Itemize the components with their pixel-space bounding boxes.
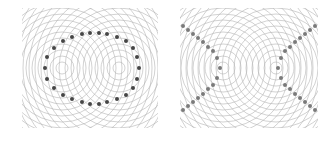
wave-ring xyxy=(180,8,318,128)
wave-ring xyxy=(180,8,318,128)
interference-dot xyxy=(97,31,101,35)
interference-dot xyxy=(43,66,47,70)
interference-dot xyxy=(191,100,195,104)
interference-dot xyxy=(131,46,135,50)
interference-dot xyxy=(288,87,292,91)
interference-dot xyxy=(105,32,109,36)
interference-dot xyxy=(276,66,280,70)
interference-dot xyxy=(70,35,74,39)
interference-dot xyxy=(80,100,84,104)
interference-dot xyxy=(303,32,307,36)
interference-dot xyxy=(283,49,287,53)
wave-ring xyxy=(180,8,318,128)
interference-dot xyxy=(201,92,205,96)
interference-dot xyxy=(218,66,222,70)
interference-dot xyxy=(45,77,49,81)
interference-dot xyxy=(293,40,297,44)
interference-dot xyxy=(215,76,219,80)
wave-interference-ellipse-figure xyxy=(22,8,158,128)
wave-ring xyxy=(180,8,318,128)
wave-ring xyxy=(83,32,155,104)
interference-dot xyxy=(196,96,200,100)
wave-ring xyxy=(95,44,143,92)
wave-ring xyxy=(180,8,318,128)
interference-dot xyxy=(288,45,292,49)
interference-dot xyxy=(279,56,283,60)
wave-source-2-rings xyxy=(180,8,318,128)
interference-dot xyxy=(298,36,302,40)
wave-ring xyxy=(180,8,318,128)
wave-source-1-rings xyxy=(180,8,318,128)
interference-dot xyxy=(105,100,109,104)
interference-dot xyxy=(191,32,195,36)
interference-dot xyxy=(211,83,215,87)
interference-dot xyxy=(206,45,210,49)
interference-dot xyxy=(88,31,92,35)
interference-dot xyxy=(115,35,119,39)
interference-dot xyxy=(135,77,139,81)
interference-dot xyxy=(131,86,135,90)
wave-ring xyxy=(180,8,318,128)
wave-ring xyxy=(180,8,318,128)
interference-dot xyxy=(303,100,307,104)
wave-ring xyxy=(180,8,283,128)
wave-ring xyxy=(205,50,241,86)
interference-dot xyxy=(181,24,185,28)
wave-ring xyxy=(180,8,318,128)
interference-dot xyxy=(97,102,101,106)
wave-ring xyxy=(211,56,235,80)
interference-dot xyxy=(283,83,287,87)
interference-dot xyxy=(196,36,200,40)
interference-dot xyxy=(215,56,219,60)
wave-ring xyxy=(26,32,98,104)
interference-dot xyxy=(206,87,210,91)
interference-dot xyxy=(186,28,190,32)
interference-dot xyxy=(52,86,56,90)
wave-ring xyxy=(44,50,80,86)
wave-ring xyxy=(113,62,125,74)
interference-dot xyxy=(279,76,283,80)
interference-dot xyxy=(298,96,302,100)
interference-panel-ellipse xyxy=(22,8,158,128)
interference-points xyxy=(181,24,317,112)
wave-ring xyxy=(180,8,318,128)
wave-ring xyxy=(65,14,158,122)
wave-ring xyxy=(107,56,131,80)
wave-interference-hyperbola-figure xyxy=(180,8,318,128)
interference-dot xyxy=(115,97,119,101)
interference-dot xyxy=(70,97,74,101)
interference-dot xyxy=(124,39,128,43)
wave-ring xyxy=(71,20,158,116)
interference-dot xyxy=(80,32,84,36)
interference-dot xyxy=(61,39,65,43)
wave-ring xyxy=(180,8,318,128)
wave-ring xyxy=(22,8,152,128)
interference-dot xyxy=(124,93,128,97)
interference-dot xyxy=(201,40,205,44)
interference-dot xyxy=(45,55,49,59)
interference-dot xyxy=(181,108,185,112)
interference-dot xyxy=(88,102,92,106)
wave-ring xyxy=(180,8,318,128)
wave-ring xyxy=(56,62,68,74)
wave-rings xyxy=(180,8,318,128)
wave-ring xyxy=(101,50,137,86)
interference-dot xyxy=(211,49,215,53)
interference-dot xyxy=(61,93,65,97)
interference-panel-hyperbola xyxy=(180,8,318,128)
interference-dot xyxy=(313,108,317,112)
wave-ring xyxy=(180,8,318,128)
wave-ring xyxy=(193,38,253,98)
wave-ring xyxy=(22,26,104,110)
interference-dot xyxy=(135,55,139,59)
interference-dot xyxy=(52,46,56,50)
interference-dot xyxy=(313,24,317,28)
wave-ring xyxy=(22,14,116,122)
interference-dot xyxy=(308,104,312,108)
interference-dot xyxy=(293,92,297,96)
wave-ring xyxy=(180,8,318,128)
wave-ring xyxy=(181,26,265,110)
interference-dot xyxy=(137,66,141,70)
interference-dot xyxy=(186,104,190,108)
interference-dot xyxy=(308,28,312,32)
